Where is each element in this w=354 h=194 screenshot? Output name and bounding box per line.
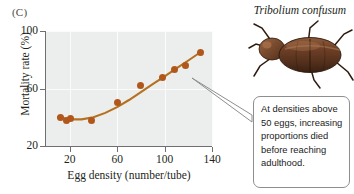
figure-panel: (C) Mortality rate (%) 2060100 206010014… <box>0 0 354 194</box>
callout-leader-line <box>0 0 354 194</box>
